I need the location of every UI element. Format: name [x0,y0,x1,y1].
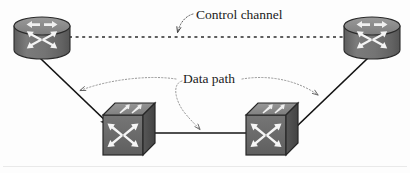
data-path-label: Data path [183,71,235,86]
network-diagram-figure: Control channel Data path [0,0,410,173]
node-router-right[interactable] [344,17,400,59]
data-path-leader-center [176,81,200,130]
node-router-left[interactable] [14,17,70,59]
switch-right-front [246,115,286,155]
diagram-canvas: Control channel Data path [0,0,410,173]
node-switch-right[interactable] [246,103,298,155]
control-channel-leader [178,14,193,33]
switch-left-front [103,115,143,155]
data-path-leader-left [80,77,176,90]
data-path-leader-right [242,77,318,95]
control-channel-label: Control channel [196,7,283,22]
link-switch-right-to-router-right [295,58,368,128]
router-right-top [344,17,400,35]
link-router-left-to-switch-left [40,58,111,126]
node-switch-left[interactable] [103,103,155,155]
router-left-top [14,17,70,35]
